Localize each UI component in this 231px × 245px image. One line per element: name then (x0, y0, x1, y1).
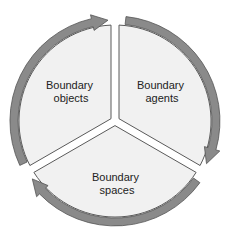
boundary-cycle-diagram: Boundary objects Boundary agents Boundar… (0, 0, 231, 245)
